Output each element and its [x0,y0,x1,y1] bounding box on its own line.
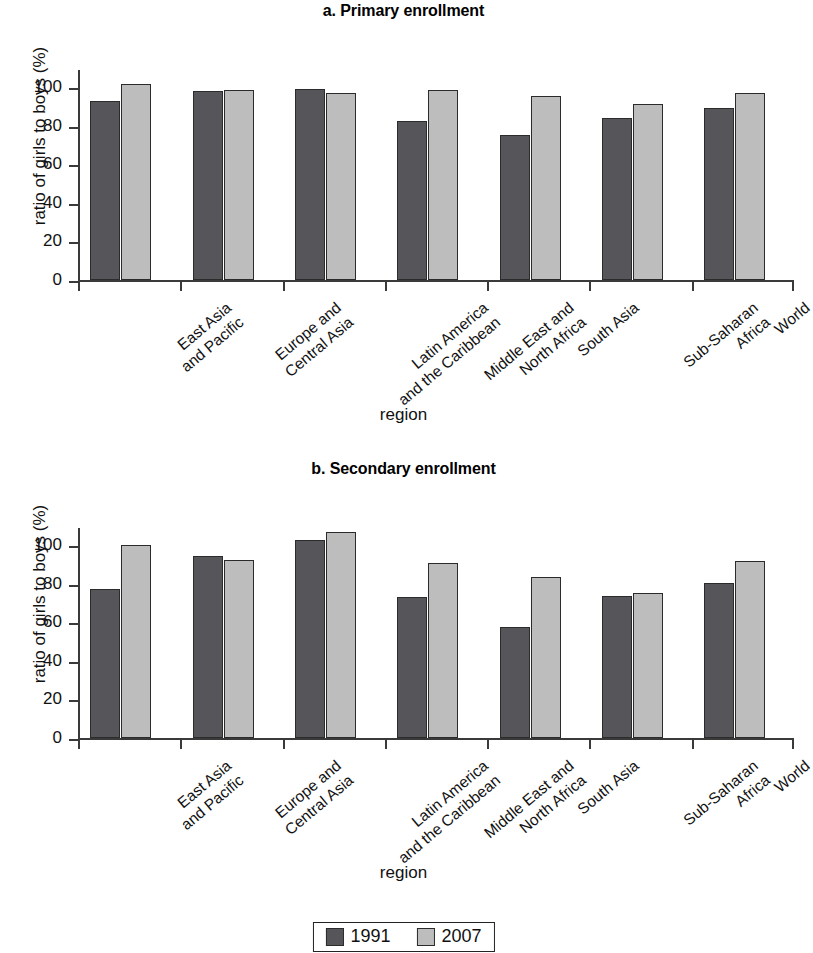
bar-2007-b [224,560,254,738]
chart-panel-primary-enrollment: a. Primary enrollment ratio of girls to … [0,0,807,455]
y-axis-tick-label-60-b: 60 [43,612,62,632]
y-axis-tick-label-80-b: 80 [43,574,62,594]
bar-1991-a [500,135,530,281]
category-label-a: Latin Americaand the Caribbean [381,298,503,409]
bar-group-b [193,526,254,738]
category-label-b: Middle East andNorth Africa [480,756,590,857]
y-axis-tick-label-40-a: 40 [43,193,62,213]
bar-group-a [193,68,254,280]
bar-group-b [90,526,151,738]
bar-2007-b [326,532,356,738]
bar-2007-b [735,561,765,738]
y-axis-tick-80-b: 80 [69,585,78,587]
bar-group-a [90,68,151,280]
axes-a: 020406080100 [78,70,794,282]
y-axis-tick-label-0-a: 0 [53,270,62,290]
x-axis-category-labels-b: East Asiaand PacificEurope andCentral As… [78,748,794,866]
bar-1991-a [602,118,632,280]
y-axis-tick-0-a: 0 [69,281,78,283]
bar-2007-b [428,563,458,738]
x-axis-line-b [78,738,794,740]
y-axis-line-b [78,528,80,740]
plot-area-a: ratio of girls to boys (%) 020406080100 … [0,22,807,290]
y-axis-tick-100-a: 100 [69,88,78,90]
plot-area-b: ratio of girls to boys (%) 020406080100 … [0,480,807,748]
bar-2007-a [531,96,561,280]
category-label-a: East Asiaand Pacific [165,298,248,376]
legend-label-1991: 1991 [350,926,390,947]
y-axis-label-b: ratio of girls to boys (%) [30,464,50,724]
bar-1991-a [704,108,734,280]
bar-2007-a [428,90,458,280]
y-axis-tick-label-20-b: 20 [43,689,62,709]
bar-group-b [704,526,765,738]
bar-2007-b [633,593,663,739]
category-label-a: World [770,298,813,338]
category-label-b: Sub-SaharanAfrica [680,756,774,844]
bar-2007-a [735,93,765,280]
chart-title-a: a. Primary enrollment [0,0,807,22]
bar-group-a [704,68,765,280]
chart-title-b: b. Secondary enrollment [0,458,807,480]
bar-1991-b [704,583,734,738]
legend-item-1991: 1991 [325,926,390,947]
bar-2007-a [633,104,663,280]
bar-group-b [295,526,356,738]
y-axis-tick-label-60-a: 60 [43,154,62,174]
y-axis-tick-0-b: 0 [69,739,78,741]
y-axis-tick-20-a: 20 [69,242,78,244]
category-label-line: World [770,756,813,796]
bar-2007-a [224,90,254,280]
bar-1991-b [397,597,427,738]
bar-group-a [500,68,561,280]
y-axis-tick-label-0-b: 0 [53,728,62,748]
y-axis-tick-20-b: 20 [69,700,78,702]
y-axis-tick-label-20-a: 20 [43,231,62,251]
x-axis-category-labels-a: East Asiaand PacificEurope andCentral As… [78,290,794,408]
y-axis-tick-label-100-b: 100 [34,535,62,555]
legend-swatch-2007-icon [417,928,435,946]
category-label-b: Europe andCentral Asia [269,756,357,839]
y-axis-tick-100-b: 100 [69,546,78,548]
bar-1991-b [90,589,120,738]
x-axis-label-a: region [0,405,807,425]
legend-item-2007: 2007 [417,926,482,947]
category-label-line: World [770,298,813,338]
bar-1991-a [193,91,223,280]
bar-1991-b [602,596,632,738]
bar-1991-a [295,89,325,280]
bar-group-b [397,526,458,738]
bar-group-a [397,68,458,280]
bar-2007-a [121,84,151,280]
category-label-a: Sub-SaharanAfrica [680,298,774,386]
y-axis-tick-label-80-a: 80 [43,116,62,136]
bar-group-b [602,526,663,738]
bar-2007-b [531,577,561,738]
bar-1991-a [90,101,120,280]
chart-panel-secondary-enrollment: b. Secondary enrollment ratio of girls t… [0,458,807,913]
bar-2007-a [326,93,356,280]
bar-1991-a [397,121,427,280]
x-axis-label-b: region [0,863,807,883]
chart-legend: 1991 2007 [312,922,494,952]
legend-swatch-1991-icon [325,928,343,946]
y-axis-tick-60-b: 60 [69,623,78,625]
bar-1991-b [193,556,223,738]
bar-2007-b [121,545,151,738]
y-axis-tick-label-100-a: 100 [34,77,62,97]
x-axis-line-a [78,280,794,282]
category-label-a: Middle East andNorth Africa [480,298,590,399]
y-axis-line-a [78,70,80,282]
y-axis-tick-40-a: 40 [69,204,78,206]
legend-label-2007: 2007 [442,926,482,947]
bar-group-a [295,68,356,280]
bar-group-a [602,68,663,280]
y-axis-tick-80-a: 80 [69,127,78,129]
category-label-b: East Asiaand Pacific [165,756,248,834]
y-axis-tick-40-b: 40 [69,662,78,664]
bar-1991-b [500,627,530,738]
category-label-a: Europe andCentral Asia [269,298,357,381]
bar-1991-b [295,540,325,738]
axes-b: 020406080100 [78,528,794,740]
